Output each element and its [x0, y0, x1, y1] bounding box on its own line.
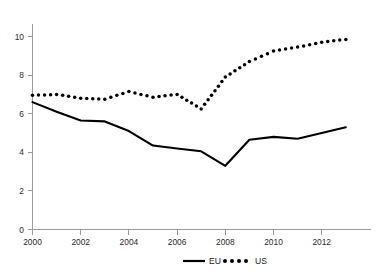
series-dot: [175, 93, 179, 97]
y-tick-label: 10: [15, 32, 25, 42]
x-tick-label: 2000: [23, 237, 42, 247]
series-dot: [308, 43, 312, 47]
series-dot: [157, 95, 161, 99]
y-tick-label: 0: [19, 225, 24, 235]
series-dot: [67, 95, 71, 99]
series-dot: [224, 75, 228, 79]
series-dot: [266, 52, 270, 56]
series-dot: [103, 97, 107, 101]
series-dot: [139, 93, 143, 97]
series-dot: [220, 80, 224, 84]
x-tick-label: 2004: [120, 237, 139, 247]
series-dot: [217, 84, 221, 88]
series-dot: [314, 42, 318, 46]
series-dot: [61, 94, 65, 98]
series-dot: [163, 94, 167, 98]
series-dot: [203, 103, 207, 107]
series-dot: [97, 97, 101, 101]
series-dot: [320, 41, 324, 45]
legend-swatch-dot-us: [230, 259, 234, 263]
series-dot: [260, 55, 264, 59]
series-dot: [127, 90, 131, 94]
series-dot: [344, 38, 348, 42]
series-dot: [195, 104, 199, 108]
series-dot: [115, 94, 119, 98]
series-dot: [338, 38, 342, 42]
series-dot: [121, 92, 125, 96]
legend-label-eu: EU: [209, 256, 221, 266]
y-tick-label: 6: [19, 109, 24, 119]
series-dot: [243, 63, 247, 67]
series-dot: [284, 47, 288, 51]
x-tick-label: 2010: [264, 237, 283, 247]
y-tick-label: 8: [19, 70, 24, 80]
line-chart: 0246810 2000200220042006200820102012 EUU…: [0, 0, 385, 276]
x-tick-label: 2002: [71, 237, 90, 247]
series-dot: [254, 57, 258, 61]
series-dot: [151, 96, 155, 100]
series-dot: [326, 40, 330, 44]
series-dot: [43, 93, 47, 97]
series-dot: [238, 66, 242, 70]
series-dot: [290, 46, 294, 50]
series-dot: [145, 94, 149, 98]
series-dot: [180, 96, 184, 100]
series-dot: [190, 101, 194, 105]
series-line-eu: [33, 102, 346, 166]
x-tick-group: 2000200220042006200820102012: [23, 230, 331, 248]
chart-canvas: 0246810 2000200220042006200820102012 EUU…: [0, 0, 385, 276]
legend-swatch-dot-us: [223, 259, 227, 263]
series-dot: [213, 89, 217, 93]
series-dot: [133, 91, 137, 95]
x-tick-label: 2008: [216, 237, 235, 247]
series-dot: [85, 97, 89, 101]
legend-label-us: US: [255, 256, 267, 266]
series-dot: [31, 94, 35, 98]
series-dot: [109, 96, 113, 100]
legend-swatch-dot-us: [237, 259, 241, 263]
series-dot: [272, 49, 276, 53]
series-dot: [248, 60, 252, 64]
series-dot: [296, 45, 300, 49]
series-dots-us: [31, 38, 348, 111]
series-dot: [185, 98, 189, 102]
chart-legend: EUUS: [183, 256, 267, 266]
series-dot: [210, 93, 214, 97]
series-dot: [278, 48, 282, 52]
series-dot: [37, 93, 41, 97]
series-dot: [79, 97, 83, 101]
series-dot: [73, 96, 77, 100]
series-dot: [55, 93, 59, 97]
series-dot: [91, 97, 95, 101]
series-dot: [302, 44, 306, 48]
x-tick-label: 2012: [312, 237, 331, 247]
y-tick-group: 0246810: [15, 32, 33, 235]
y-tick-label: 4: [19, 147, 24, 157]
y-tick-label: 2: [19, 186, 24, 196]
series-dot: [332, 39, 336, 43]
series-group: [31, 38, 348, 166]
series-dot: [233, 69, 237, 73]
series-dot: [169, 93, 173, 97]
legend-swatch-dot-us: [244, 259, 248, 263]
series-dot: [49, 93, 53, 97]
x-tick-label: 2006: [168, 237, 187, 247]
series-dot: [206, 98, 210, 102]
series-dot: [228, 72, 232, 76]
series-dot: [199, 107, 203, 111]
